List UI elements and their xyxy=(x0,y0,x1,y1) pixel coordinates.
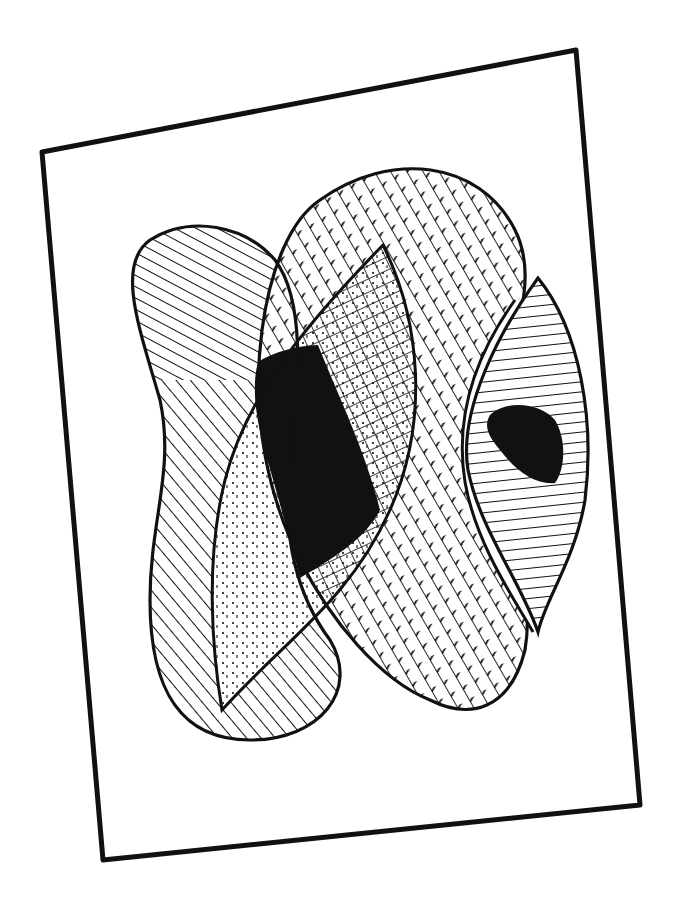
artwork-canvas xyxy=(0,0,678,911)
ink-illustration xyxy=(0,0,678,911)
